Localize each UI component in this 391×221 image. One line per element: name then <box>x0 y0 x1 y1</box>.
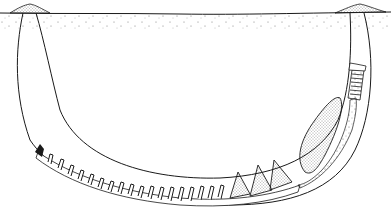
burrow-illustration <box>0 0 391 221</box>
worm-body <box>36 152 300 206</box>
sediment-surface <box>0 12 391 31</box>
right-burrow-opening <box>335 4 386 13</box>
worm-tail-segments <box>348 63 366 100</box>
illustration-svg <box>0 0 391 221</box>
left-burrow-opening <box>10 4 50 13</box>
mucus-bag <box>298 98 356 188</box>
